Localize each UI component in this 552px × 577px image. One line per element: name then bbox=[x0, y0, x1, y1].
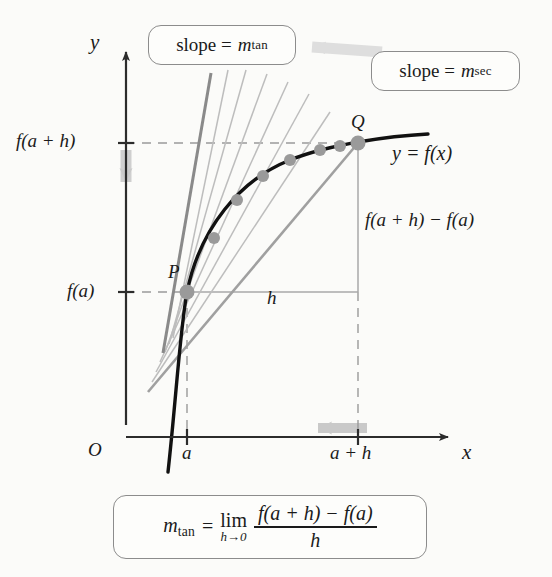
limit-lim-text: lim bbox=[220, 510, 247, 531]
y-tick-label-upper: f(a + h) bbox=[16, 131, 75, 150]
callout-slope-secant: slope = msec bbox=[371, 51, 520, 91]
callout-limit-formula: mtan = lim h→0 f(a + h) − f(a) h bbox=[113, 495, 427, 559]
secant-line-6 bbox=[152, 112, 330, 382]
callout-tangent-subscript: tan bbox=[251, 37, 267, 53]
run-label: h bbox=[267, 288, 277, 307]
point-P-marker bbox=[180, 285, 195, 300]
callout-slope-tangent: slope = mtan bbox=[148, 25, 296, 65]
axes bbox=[118, 52, 448, 445]
y-axis-label: y bbox=[90, 32, 99, 53]
formula-equals: = bbox=[202, 515, 213, 538]
secant-line-5 bbox=[156, 94, 309, 372]
secant-point-6 bbox=[334, 140, 346, 152]
formula-lhs-symbol: m bbox=[163, 514, 177, 536]
secant-point-5 bbox=[314, 144, 326, 156]
difference-quotient: f(a + h) − f(a) h bbox=[254, 502, 377, 551]
motion-arrow-top bbox=[312, 47, 382, 52]
secant-point-1 bbox=[208, 232, 220, 244]
secant-point-4 bbox=[284, 154, 296, 166]
fraction-denominator: h bbox=[310, 528, 320, 552]
fraction-numerator: f(a + h) − f(a) bbox=[254, 502, 377, 526]
callout-secant-symbol: m bbox=[461, 60, 475, 82]
point-P-label: P bbox=[168, 262, 180, 281]
limit-formula: mtan = lim h→0 f(a + h) − f(a) h bbox=[163, 502, 376, 551]
point-Q-label: Q bbox=[351, 112, 365, 131]
x-axis-label: x bbox=[462, 442, 471, 463]
figure-canvas: y x O f(a + h) f(a) a a + h P Q y = f(x)… bbox=[0, 0, 552, 577]
secant-point-3 bbox=[257, 170, 269, 182]
callout-secant-text: slope = bbox=[399, 60, 455, 82]
x-tick-label-left: a bbox=[182, 443, 192, 462]
formula-lhs-subscript: tan bbox=[178, 524, 195, 539]
guide-lines bbox=[126, 143, 358, 437]
x-tick-label-right: a + h bbox=[330, 443, 371, 462]
point-Q-marker bbox=[351, 136, 366, 151]
callout-secant-subscript: sec bbox=[475, 63, 492, 79]
callout-tangent-symbol: m bbox=[238, 34, 252, 56]
callout-tangent-text: slope = bbox=[176, 34, 232, 56]
limit-operator: lim h→0 bbox=[220, 510, 247, 544]
y-tick-label-lower: f(a) bbox=[67, 281, 94, 300]
curve-equation-label: y = f(x) bbox=[392, 143, 452, 163]
limit-subscript: h→0 bbox=[221, 530, 247, 544]
rise-label: f(a + h) − f(a) bbox=[365, 210, 474, 229]
origin-label: O bbox=[88, 440, 102, 459]
secant-line-4 bbox=[160, 82, 288, 362]
function-curve bbox=[168, 134, 428, 472]
secant-point-2 bbox=[231, 194, 243, 206]
